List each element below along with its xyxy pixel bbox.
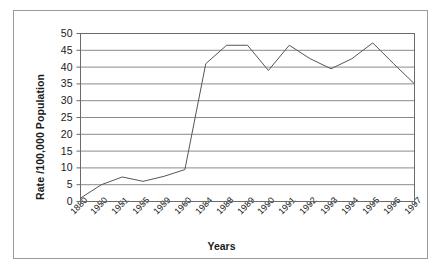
x-axis-ticks [81, 202, 415, 206]
gridlines [77, 34, 415, 202]
data-series-line [81, 43, 415, 198]
plot-area [0, 0, 443, 272]
chart-figure: Rate /100,000 Population 504540353025201… [0, 0, 443, 272]
x-axis-title: Years [0, 240, 443, 252]
